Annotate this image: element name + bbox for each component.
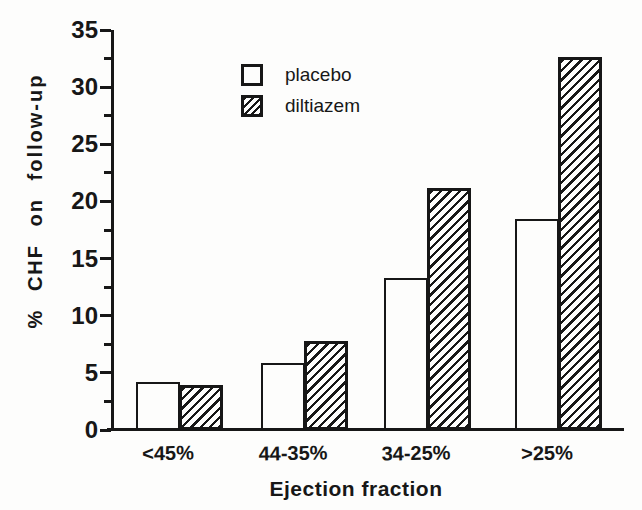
- y-major-tick: [100, 429, 111, 432]
- y-axis-line: [111, 30, 114, 431]
- legend: placebo diltiazem: [241, 64, 360, 126]
- legend-item-placebo: placebo: [241, 64, 360, 86]
- bar-diltiazem-<45%: [179, 385, 223, 430]
- y-tick-label: 5: [40, 361, 98, 385]
- bar-diltiazem-44-35%: [304, 341, 348, 430]
- x-axis-title: Ejection fraction: [269, 477, 442, 501]
- y-tick-label: 15: [40, 247, 98, 271]
- y-minor-tick: [104, 286, 111, 289]
- x-category-label: >25%: [472, 441, 622, 467]
- y-major-tick: [100, 200, 111, 203]
- y-tick-label: 35: [40, 18, 98, 42]
- bar-placebo-<45%: [136, 382, 180, 430]
- y-major-tick: [100, 371, 111, 374]
- hatched-square-icon: [241, 95, 263, 117]
- y-tick-label: 30: [40, 75, 98, 99]
- open-square-icon: [241, 64, 263, 86]
- y-major-tick: [100, 314, 111, 317]
- y-tick-label: 10: [40, 304, 98, 328]
- y-major-tick: [100, 86, 111, 89]
- bar-chart-figure: % CHF on follow-up placebo diltiazem Eje…: [0, 0, 642, 510]
- bar-diltiazem-34-25%: [427, 188, 471, 430]
- y-tick-label: 25: [40, 132, 98, 156]
- y-minor-tick: [104, 171, 111, 174]
- legend-label-diltiazem: diltiazem: [285, 95, 360, 117]
- y-minor-tick: [104, 400, 111, 403]
- y-minor-tick: [104, 114, 111, 117]
- y-minor-tick: [104, 343, 111, 346]
- bar-placebo-44-35%: [261, 363, 305, 430]
- y-major-tick: [100, 143, 111, 146]
- legend-item-diltiazem: diltiazem: [241, 95, 360, 117]
- bar-diltiazem->25%: [558, 57, 602, 430]
- y-tick-label: 0: [40, 418, 98, 442]
- y-minor-tick: [104, 57, 111, 60]
- y-major-tick: [100, 257, 111, 260]
- y-major-tick: [100, 29, 111, 32]
- y-tick-label: 20: [40, 189, 98, 213]
- x-category-label: 34-25%: [341, 441, 491, 467]
- bar-placebo->25%: [515, 219, 559, 430]
- legend-label-placebo: placebo: [285, 64, 352, 86]
- y-minor-tick: [104, 229, 111, 232]
- bar-placebo-34-25%: [384, 278, 428, 430]
